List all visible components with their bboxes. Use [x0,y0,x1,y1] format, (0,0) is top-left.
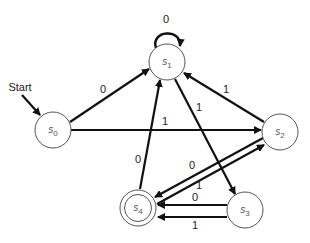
edge-label-s0-s1: 0 [100,84,106,95]
state-diagram: Start s0 s1 s2 s3 s4 0 0 1 1 1 0 1 0 0 1 [0,0,310,243]
state-label-s0: s0 [48,124,57,138]
edge-s2-s1 [184,73,264,122]
state-label-s4: s4 [133,202,142,216]
edge-s0-s1 [70,69,149,122]
edge-label-s1-s3: 1 [196,102,202,113]
state-label-s3: s3 [240,204,249,218]
edge-label-s4-s1: 0 [135,154,141,165]
state-label-s2: s2 [275,126,284,140]
edge-label-s3-s4-0: 0 [192,192,198,203]
edge-label-s2-s1: 1 [223,84,229,95]
edge-label-s3-s4-1: 1 [192,220,198,231]
edge-label-s4-s2: 1 [196,180,202,191]
edge-label-s1-s1: 0 [163,14,169,25]
edge-s2-s4 [155,138,263,197]
edge-label-s0-s2: 1 [162,116,168,127]
edge-label-s2-s4: 0 [189,160,195,171]
start-label: Start [8,82,31,93]
diagram-graphics [0,0,310,243]
state-label-s1: s1 [162,56,171,70]
edge-s4-s1 [140,80,160,189]
start-arrow [22,95,40,115]
